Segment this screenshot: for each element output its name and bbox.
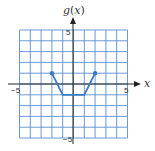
y-axis-label: g(x) bbox=[63, 4, 85, 17]
y-min-tick-label: −5 bbox=[63, 135, 73, 144]
y-axis-arrow-icon bbox=[70, 17, 76, 24]
y-axis-label-close: ) bbox=[81, 4, 85, 17]
y-max-tick-label: 5 bbox=[66, 28, 71, 37]
x-axis-arrow-icon bbox=[134, 81, 141, 87]
x-max-tick-label: 5 bbox=[124, 86, 129, 95]
x-min-tick-label: −5 bbox=[11, 86, 21, 95]
closed-endpoint bbox=[50, 71, 54, 75]
x-axis-label: x bbox=[144, 77, 151, 90]
y-axis-label-func: g bbox=[63, 4, 70, 17]
function-graph: −5 5 5 −5 g(x) x bbox=[0, 0, 155, 151]
closed-endpoint bbox=[93, 71, 97, 75]
